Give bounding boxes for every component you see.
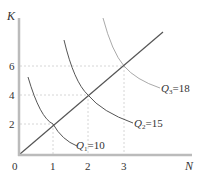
q2-label: Q2=15 bbox=[134, 117, 163, 131]
isoquant-diagram: K N 0 1 2 3 2 4 6 Q1=10 Q2=15 Q3=18 bbox=[0, 0, 199, 178]
y-tick-2: 2 bbox=[9, 118, 15, 130]
y-tick-6: 6 bbox=[9, 60, 15, 72]
x-tick-2: 2 bbox=[85, 160, 91, 172]
isoquant-q3-curve bbox=[103, 18, 160, 88]
q1-label: Q1=10 bbox=[76, 139, 105, 153]
expansion-path-line bbox=[20, 32, 163, 154]
x-tick-1: 1 bbox=[50, 160, 56, 172]
y-tick-4: 4 bbox=[9, 89, 15, 101]
x-axis-label: N bbox=[184, 159, 194, 173]
q3-label: Q3=18 bbox=[161, 82, 190, 96]
y-axis-label: K bbox=[6, 9, 16, 23]
x-tick-3: 3 bbox=[121, 160, 127, 172]
origin-label: 0 bbox=[12, 160, 18, 172]
isoquant-q2-curve bbox=[64, 40, 133, 123]
